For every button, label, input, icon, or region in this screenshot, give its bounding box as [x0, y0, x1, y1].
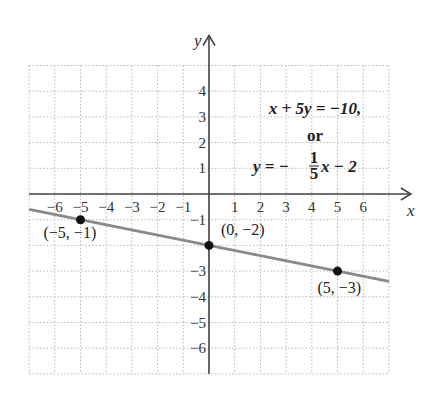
data-point: [333, 267, 342, 276]
x-tick-label: 1: [231, 199, 239, 215]
fraction-denominator: 5: [310, 164, 319, 183]
y-tick-label: −6: [190, 340, 206, 356]
x-tick-label: −2: [150, 199, 166, 215]
y-tick-label: −1: [190, 212, 206, 228]
point-label: (5, −3): [318, 279, 362, 297]
y-axis-label: y: [192, 31, 202, 50]
equation-standard-form: x + 5y = −10,: [268, 99, 361, 118]
point-label: (0, −2): [221, 221, 265, 239]
y-tick-label: 4: [199, 83, 207, 99]
y-tick-label: −5: [190, 315, 206, 331]
x-tick-label: 6: [359, 199, 367, 215]
x-tick-label: 4: [308, 199, 316, 215]
data-point: [205, 241, 214, 250]
linear-equation-graph: xy −6−5−4−3−2−11234564321−1−3−4−5−6 (−5,…: [0, 0, 444, 403]
x-tick-label: 5: [334, 199, 342, 215]
x-tick-label: 3: [282, 199, 290, 215]
x-tick-label: 2: [257, 199, 265, 215]
x-tick-label: −1: [175, 199, 191, 215]
equation-slope-prefix: y = −: [251, 157, 289, 176]
equation-or: or: [307, 126, 324, 145]
point-label: (−5, −1): [44, 224, 97, 242]
y-tick-label: −3: [190, 263, 206, 279]
y-tick-label: 3: [199, 109, 207, 125]
x-axis-label: x: [406, 201, 415, 220]
equation-annotation: x + 5y = −10,ory = −15x − 2: [236, 88, 388, 183]
y-tick-label: 1: [199, 160, 207, 176]
y-tick-label: −4: [190, 289, 206, 305]
x-tick-label: −5: [73, 199, 89, 215]
equation-slope-suffix: x − 2: [320, 157, 357, 176]
y-tick-label: 2: [199, 135, 207, 151]
x-tick-label: −4: [98, 199, 114, 215]
x-tick-label: −3: [124, 199, 140, 215]
